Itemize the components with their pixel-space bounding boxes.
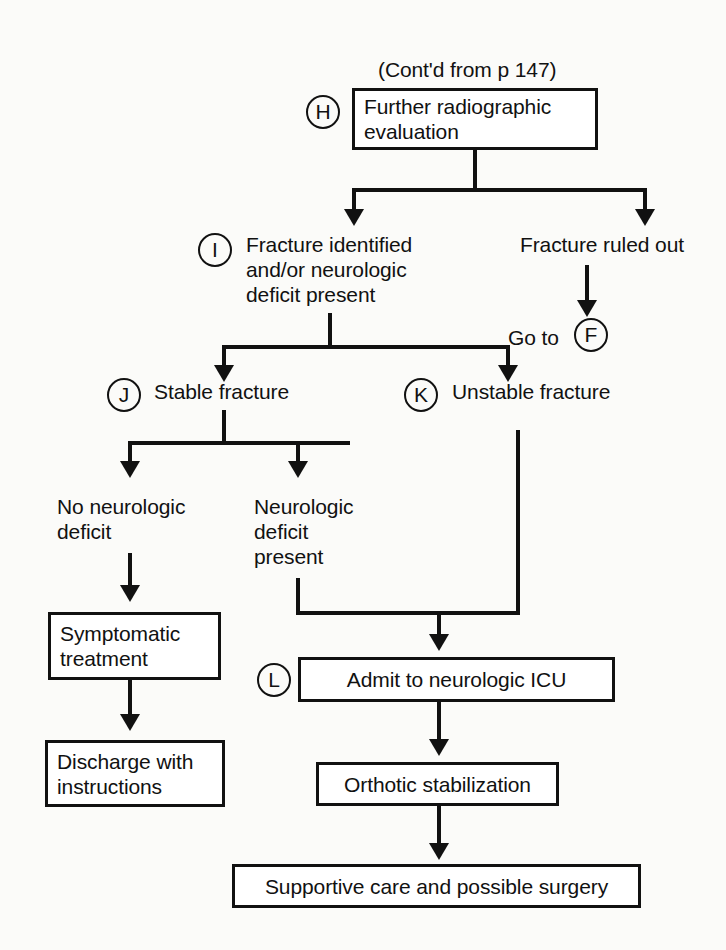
node-supportive-care-label: Supportive care and possible surgery xyxy=(265,874,608,899)
step-marker-l-label: L xyxy=(268,669,280,690)
node-admit-to-neurologic-icu[interactable]: Admit to neurologic ICU xyxy=(298,657,615,702)
arrowhead-to-fracture-ruled-out xyxy=(635,209,655,226)
step-marker-h: H xyxy=(306,95,340,129)
step-marker-i: I xyxy=(198,233,232,267)
step-marker-j-label: J xyxy=(119,384,130,405)
node-orthotic-stabilization-label: Orthotic stabilization xyxy=(344,772,531,797)
step-marker-k: K xyxy=(404,378,438,412)
connector-neuro-deficit-drop xyxy=(296,578,300,615)
connector-h-split-bar xyxy=(352,188,647,192)
step-marker-h-label: H xyxy=(315,101,330,122)
connector-j-split-bar xyxy=(128,441,350,445)
connector-i-split-bar xyxy=(222,345,510,349)
flowchart-canvas: (Cont'd from p 147) H Further radiograph… xyxy=(0,0,726,950)
node-fracture-identified: Fracture identified and/or neurologic de… xyxy=(246,232,412,307)
connector-orthotic-to-supportive xyxy=(437,806,441,848)
step-marker-l: L xyxy=(257,663,291,697)
arrowhead-to-go-to-f xyxy=(577,300,597,317)
arrowhead-to-orthotic-stabilization xyxy=(429,739,449,756)
step-marker-j: J xyxy=(107,378,141,412)
node-orthotic-stabilization[interactable]: Orthotic stabilization xyxy=(316,762,559,806)
continued-from-note: (Cont'd from p 147) xyxy=(378,57,556,82)
node-discharge-with-instructions[interactable]: Discharge with instructions xyxy=(45,740,225,807)
arrowhead-to-symptomatic-treatment xyxy=(120,585,140,602)
arrowhead-to-supportive-care xyxy=(429,843,449,860)
arrowhead-to-neuro-deficit-present xyxy=(288,461,308,478)
step-marker-f[interactable]: F xyxy=(574,318,608,352)
node-symptomatic-treatment[interactable]: Symptomatic treatment xyxy=(48,612,221,680)
connector-ruled-out-stem xyxy=(585,265,589,305)
node-further-radiographic-evaluation-label: Further radiographic evaluation xyxy=(364,94,551,144)
node-supportive-care[interactable]: Supportive care and possible surgery xyxy=(232,864,641,908)
step-marker-f-label: F xyxy=(585,324,598,345)
node-stable-fracture: Stable fracture xyxy=(154,379,289,404)
connector-h-stem xyxy=(473,150,477,192)
connector-icu-to-orthotic xyxy=(437,702,441,744)
connector-k-long-drop xyxy=(516,430,520,615)
node-symptomatic-treatment-label: Symptomatic treatment xyxy=(60,621,180,671)
node-further-radiographic-evaluation[interactable]: Further radiographic evaluation xyxy=(352,88,598,150)
step-marker-k-label: K xyxy=(414,384,428,405)
node-unstable-fracture: Unstable fracture xyxy=(452,379,610,404)
step-marker-i-label: I xyxy=(212,239,218,260)
connector-merge-bar xyxy=(296,611,520,615)
arrowhead-to-no-neuro-deficit xyxy=(120,461,140,478)
connector-j-stem xyxy=(222,410,226,445)
label-go-to: Go to xyxy=(508,325,559,350)
arrowhead-to-discharge xyxy=(120,714,140,731)
node-no-neurologic-deficit: No neurologic deficit xyxy=(57,494,185,544)
node-admit-to-neurologic-icu-label: Admit to neurologic ICU xyxy=(347,667,566,692)
connector-i-stem xyxy=(328,313,332,349)
node-fracture-ruled-out: Fracture ruled out xyxy=(520,232,684,257)
node-discharge-with-instructions-label: Discharge with instructions xyxy=(57,749,193,799)
arrowhead-to-fracture-identified xyxy=(344,209,364,226)
arrowhead-to-admit-icu xyxy=(429,634,449,651)
node-neurologic-deficit-present: Neurologic deficit present xyxy=(254,494,353,569)
